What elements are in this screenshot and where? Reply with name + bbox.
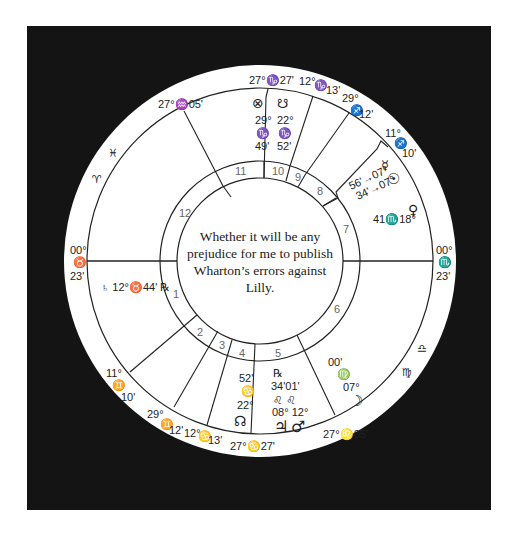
cusp-label-10: 27°♑27': [249, 74, 294, 87]
sn-deg: 22°: [277, 114, 294, 126]
south-node-icon: ☋: [277, 96, 289, 111]
cusp-label-9-deg: 29°: [342, 92, 359, 104]
jupiter-mars-min: 34'01': [271, 380, 300, 392]
venus-icon: ♀: [408, 202, 418, 218]
house-number-6: 6: [334, 303, 340, 315]
sn-min: 52': [277, 140, 291, 152]
house-number-3: 3: [219, 339, 225, 351]
pof-min: 49': [255, 140, 269, 152]
cusp-label-11: 27°♒05': [158, 98, 203, 111]
cusp-label-5: 27°♌05': [323, 428, 368, 441]
cusp-label-3-min: 12': [169, 424, 183, 436]
moon-icon: ☽: [350, 392, 363, 410]
jupiter-icon: ♃: [274, 417, 288, 436]
horary-question: Whether it will be any prejudice for me …: [180, 228, 340, 296]
pof-deg: 29°: [255, 114, 272, 126]
pof-sign: ♑: [256, 127, 270, 140]
house-number-12: 12: [179, 207, 191, 219]
house-number-1: 1: [173, 288, 179, 300]
north-node-icon: ☊: [234, 413, 246, 429]
aries-icon: ♈: [92, 173, 102, 186]
cusp-label-4: 27°♋27': [230, 440, 275, 453]
pisces-icon: ♓: [108, 147, 118, 160]
virgo-icon: ♍: [402, 366, 412, 379]
house-number-5: 5: [275, 347, 281, 359]
cusp-label-3b-min: 13': [208, 434, 222, 446]
cusp-label-9-min: 12': [359, 108, 373, 120]
dsc-label-min: 23': [436, 270, 450, 282]
dsc-label-deg: 00°: [436, 244, 453, 256]
nn-sign: ♋: [241, 385, 255, 398]
part-of-fortune-icon: ⊗: [252, 95, 264, 111]
cusp-label-8-min: 10': [402, 147, 416, 159]
house-number-8: 8: [317, 185, 323, 197]
moon-min: 00': [328, 356, 342, 368]
house-number-10: 10: [272, 165, 284, 177]
nn-min: 52': [239, 372, 253, 384]
asc-label-sign: ♉: [73, 256, 87, 269]
cusp-label-2-min: 10': [121, 391, 135, 403]
house-number-9: 9: [295, 171, 301, 183]
house-number-11: 11: [235, 165, 246, 177]
asc-label-deg: 00°: [70, 244, 87, 256]
dsc-label-sign: ♏: [438, 256, 452, 269]
cusp-label-9b-min: 13': [326, 84, 340, 96]
mars-icon: ♂: [291, 417, 305, 436]
house-number-4: 4: [239, 347, 245, 359]
sn-sign: ♑: [278, 127, 292, 140]
house-number-7: 7: [343, 223, 349, 235]
saturn-position: ♄ 12°♉44' ℞: [101, 281, 170, 294]
cusp-label-2-deg: 11°: [106, 367, 122, 379]
jupiter-retrograde: ℞: [273, 367, 283, 379]
asc-label-min: 23': [70, 270, 84, 282]
moon-sign: ♍: [337, 368, 351, 381]
libra-icon: ♎: [417, 342, 427, 355]
house-number-2: 2: [197, 326, 203, 338]
nn-deg: 22°: [237, 399, 254, 411]
